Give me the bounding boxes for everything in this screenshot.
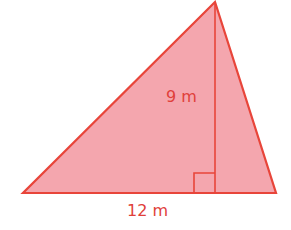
triangle-shape	[23, 2, 276, 193]
height-label: 9 m	[166, 89, 197, 105]
triangle-diagram	[0, 0, 291, 230]
base-label: 12 m	[127, 203, 168, 219]
